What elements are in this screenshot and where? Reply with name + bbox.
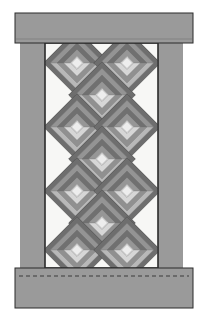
right-frame-post <box>158 43 183 271</box>
quilt-window-diagram <box>0 0 205 321</box>
diagram-canvas <box>0 0 205 321</box>
bottom-sill-bar <box>15 268 193 308</box>
left-frame-post <box>20 43 45 271</box>
